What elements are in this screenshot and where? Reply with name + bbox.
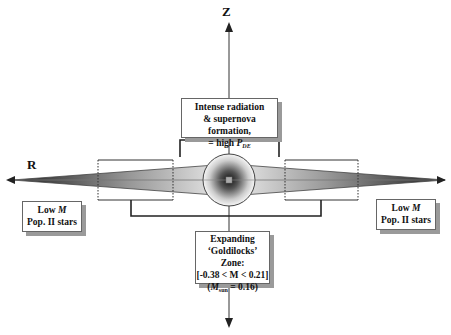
r-axis-label: R <box>27 157 36 173</box>
bottom-annotation-box: Expanding ‘Goldilocks’ Zone: [-0.38 < M … <box>195 231 270 284</box>
bottom-box-line1: Expanding <box>196 233 269 245</box>
right-box-line1: Low M <box>377 202 435 214</box>
z-axis-label: Z <box>222 4 231 20</box>
galactic-bulge <box>203 154 255 206</box>
top-box-line3: = high PDE <box>182 137 277 152</box>
top-annotation-box: Intense radiation & supernova formation,… <box>181 98 278 138</box>
left-box-line1: Low M <box>23 204 81 216</box>
right-box-line2: Pop. II stars <box>377 214 435 226</box>
left-box-line2: Pop. II stars <box>23 216 81 228</box>
right-annotation-box: Low M Pop. II stars <box>376 199 436 230</box>
top-box-line2: & supernova formation, <box>182 113 277 137</box>
bottom-box-line4: (Msun = 0.16) <box>196 281 269 296</box>
top-box-line1: Intense radiation <box>182 101 277 113</box>
left-annotation-box: Low M Pop. II stars <box>22 201 82 232</box>
bottom-box-line2: ‘Goldilocks’ Zone: <box>196 245 269 269</box>
bottom-box-line3: [-0.38 < M < 0.21] <box>196 269 269 281</box>
